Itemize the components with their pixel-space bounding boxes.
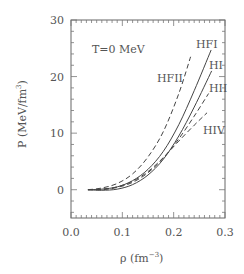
x-axis-label: ρ (fm−3) [120,251,163,265]
x-tick-label: 0.2 [165,226,183,239]
pressure-density-chart: 0.00.10.20.30102030 T=0 MeV ρ (fm−3) P (… [0,0,244,274]
series-line-hfi [88,50,211,190]
series-label-hfi: HFI [196,38,218,51]
series-labels: HFI HI HFII HII HIV [157,38,227,137]
x-axis-label-sup: −3 [149,251,159,259]
x-tick-label: 0.0 [62,226,80,239]
x-axis-label-close: ) [159,252,163,265]
series-line-hiv [88,113,207,190]
series-label-hii: HII [209,82,227,95]
y-axis-label: P (MeV/fm3) [15,80,29,148]
series-label-hi: HI [209,59,223,72]
plot-curves [88,50,212,190]
x-tick-label: 0.3 [216,226,234,239]
series-label-hfii: HFII [157,72,183,85]
temperature-annotation: T=0 MeV [92,43,146,56]
y-tick-label: 30 [50,14,64,27]
x-tick-label: 0.1 [114,226,132,239]
series-label-hiv: HIV [203,124,226,137]
y-tick-label: 0 [57,184,64,197]
y-tick-label: 10 [50,127,64,140]
y-axis-label-base: P (MeV/fm [16,88,29,148]
series-line-hi [88,71,212,190]
x-axis-label-base: ρ (fm [120,252,149,265]
y-tick-label: 20 [50,71,64,84]
y-axis-label-close: ) [16,80,29,84]
